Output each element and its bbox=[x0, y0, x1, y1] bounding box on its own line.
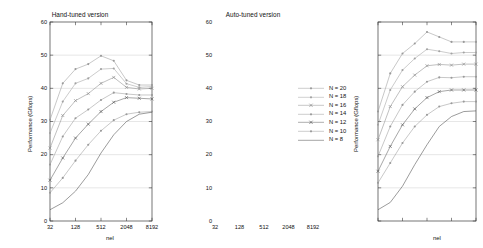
legend-item: N = 18 bbox=[296, 93, 362, 102]
series-line bbox=[50, 112, 152, 210]
y-tick-label: 50 bbox=[30, 52, 47, 58]
data-point-marker bbox=[100, 55, 102, 57]
data-point-marker bbox=[438, 76, 440, 78]
data-point-marker bbox=[377, 124, 379, 126]
series-line bbox=[50, 112, 152, 193]
data-point-marker bbox=[389, 162, 391, 164]
y-tick-label: 30 bbox=[30, 118, 47, 124]
data-point-marker bbox=[414, 57, 416, 59]
legend-item: N = 14 bbox=[296, 110, 362, 119]
data-point-marker bbox=[62, 101, 64, 103]
data-point-marker bbox=[450, 77, 452, 79]
data-point-marker bbox=[414, 91, 416, 93]
legend-marker-icon bbox=[296, 136, 326, 145]
data-point-marker bbox=[100, 82, 103, 85]
data-point-marker bbox=[438, 50, 440, 52]
series-line bbox=[50, 98, 152, 181]
x-tick-label: 128 bbox=[65, 224, 87, 230]
data-point-marker bbox=[401, 69, 403, 71]
legend-item: N = 16 bbox=[296, 101, 362, 110]
data-point-marker bbox=[426, 114, 428, 116]
data-point-marker bbox=[113, 60, 115, 62]
data-point-marker bbox=[401, 123, 404, 126]
data-point-marker bbox=[426, 48, 428, 50]
data-point-marker bbox=[426, 31, 428, 33]
data-point-marker bbox=[49, 132, 51, 134]
data-point-marker bbox=[463, 41, 465, 43]
legend-marker-icon bbox=[296, 93, 326, 102]
data-point-marker bbox=[49, 119, 51, 121]
x-tick-label: 512 bbox=[253, 224, 275, 230]
data-point-marker bbox=[389, 89, 391, 91]
data-point-marker bbox=[151, 94, 153, 96]
data-point-marker bbox=[450, 102, 452, 104]
data-point-marker bbox=[125, 93, 127, 95]
data-point-marker bbox=[100, 110, 103, 113]
data-point-marker bbox=[138, 94, 140, 96]
x-tick-label: 8192 bbox=[141, 224, 163, 230]
data-point-marker bbox=[377, 155, 379, 157]
data-point-marker bbox=[100, 99, 102, 101]
series-line bbox=[50, 56, 152, 120]
x-tick-label: 32 bbox=[39, 224, 61, 230]
data-point-marker bbox=[87, 109, 89, 111]
data-point-marker bbox=[389, 145, 392, 148]
data-point-marker bbox=[413, 74, 416, 77]
data-point-marker bbox=[389, 125, 391, 127]
x-tick-label: 512 bbox=[90, 224, 112, 230]
data-point-marker bbox=[138, 84, 140, 86]
data-point-marker bbox=[125, 113, 127, 115]
data-point-marker bbox=[74, 99, 77, 102]
y-tick-label: 40 bbox=[195, 85, 212, 91]
data-point-marker bbox=[475, 76, 477, 78]
data-point-marker bbox=[74, 117, 76, 119]
data-point-marker bbox=[389, 72, 391, 74]
data-point-marker bbox=[74, 137, 77, 140]
data-point-marker bbox=[87, 63, 89, 65]
y-tick-label: 60 bbox=[30, 19, 47, 25]
x-tick-label: 128 bbox=[229, 224, 251, 230]
series-line bbox=[378, 111, 476, 210]
data-point-marker bbox=[74, 82, 76, 84]
legend-label: N = 12 bbox=[329, 119, 346, 125]
legend-label: N = 16 bbox=[329, 102, 346, 108]
data-point-marker bbox=[426, 81, 428, 83]
data-point-marker bbox=[377, 182, 379, 184]
y-tick-label: 0 bbox=[195, 218, 212, 224]
data-point-marker bbox=[100, 68, 102, 70]
data-point-marker bbox=[87, 144, 89, 146]
data-point-marker bbox=[401, 52, 403, 54]
data-point-marker bbox=[414, 125, 416, 127]
data-point-marker bbox=[113, 67, 115, 69]
data-point-marker bbox=[401, 104, 403, 106]
data-point-marker bbox=[49, 192, 51, 194]
data-point-marker bbox=[61, 156, 64, 159]
legend-marker-icon bbox=[296, 127, 326, 136]
data-point-marker bbox=[87, 123, 90, 126]
data-point-marker bbox=[426, 96, 429, 99]
data-point-marker bbox=[377, 111, 379, 113]
y-tick-label: 10 bbox=[30, 185, 47, 191]
legend-label: N = 20 bbox=[329, 85, 346, 91]
data-point-marker bbox=[401, 142, 403, 144]
data-point-marker bbox=[87, 92, 90, 95]
data-point-marker bbox=[113, 92, 115, 94]
series-line bbox=[378, 49, 476, 125]
data-point-marker bbox=[125, 83, 127, 85]
data-point-marker bbox=[463, 101, 465, 103]
x-tick-label: 2048 bbox=[278, 224, 300, 230]
data-point-marker bbox=[87, 77, 89, 79]
data-point-marker bbox=[62, 135, 64, 137]
legend-marker-icon bbox=[296, 118, 326, 127]
x-tick-label: 2048 bbox=[116, 224, 138, 230]
data-point-marker bbox=[112, 101, 115, 104]
y-tick-label: 20 bbox=[30, 151, 47, 157]
legend-item: N = 12 bbox=[296, 118, 362, 127]
data-point-marker bbox=[100, 130, 102, 132]
legend-label: N = 14 bbox=[329, 110, 346, 116]
x-tick-label: 32 bbox=[204, 224, 226, 230]
data-point-marker bbox=[450, 41, 452, 43]
legend-marker-icon bbox=[296, 101, 326, 110]
data-point-marker bbox=[61, 114, 64, 117]
data-point-marker bbox=[74, 68, 76, 70]
